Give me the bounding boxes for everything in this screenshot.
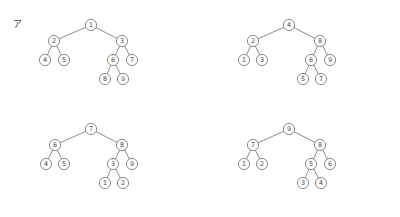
tree-edge bbox=[305, 65, 309, 74]
tree-edge bbox=[57, 150, 61, 159]
tree-edge bbox=[313, 46, 317, 55]
binary-tree-figure-set: ア 123456789 イ 428136957 ウ 768453912 エ 97… bbox=[0, 0, 400, 217]
tree-edge bbox=[255, 46, 259, 55]
tree-node: 7 bbox=[85, 123, 96, 134]
tree-node-value: 3 bbox=[111, 160, 115, 168]
tree-node: 7 bbox=[247, 139, 258, 150]
tree-node: 6 bbox=[107, 54, 118, 65]
tree-node: 6 bbox=[324, 158, 335, 169]
tree-node: 8 bbox=[314, 35, 325, 46]
tree-edge bbox=[47, 46, 51, 55]
tree-edge bbox=[115, 150, 119, 159]
tree-edge bbox=[48, 150, 52, 159]
tree-node-value: 7 bbox=[251, 141, 255, 149]
tree-node: 9 bbox=[324, 54, 335, 65]
tree-node-value: 1 bbox=[103, 179, 107, 187]
tree-edge bbox=[96, 28, 117, 39]
tree-node-value: 4 bbox=[44, 160, 48, 168]
tree-node: 2 bbox=[48, 35, 59, 46]
tree-node-value: 6 bbox=[111, 56, 115, 64]
tree-node: 8 bbox=[116, 139, 127, 150]
tree-node: 8 bbox=[314, 139, 325, 150]
tree-edge bbox=[60, 131, 86, 142]
tree-node-value: 2 bbox=[260, 160, 264, 168]
tree-panel-c: ウ 768453912 bbox=[0, 109, 200, 217]
tree-node: 4 bbox=[39, 54, 50, 65]
tree-node-value: 3 bbox=[120, 37, 124, 45]
tree-node-value: 6 bbox=[328, 160, 332, 168]
tree-node-value: 8 bbox=[103, 75, 107, 83]
tree-node-value: 6 bbox=[309, 56, 313, 64]
tree-node-value: 7 bbox=[89, 125, 93, 133]
tree-node-value: 5 bbox=[62, 56, 66, 64]
tree-node-value: 6 bbox=[53, 141, 57, 149]
tree-node: 5 bbox=[297, 73, 308, 84]
tree-edge bbox=[294, 28, 315, 39]
tree-node: 4 bbox=[283, 19, 294, 30]
tree-node: 2 bbox=[117, 177, 128, 188]
tree-node: 1 bbox=[85, 19, 96, 30]
tree-diagram-d: 978125634 bbox=[200, 109, 400, 217]
tree-node-value: 9 bbox=[328, 56, 332, 64]
tree-node-value: 5 bbox=[301, 75, 305, 83]
tree-node: 5 bbox=[305, 158, 316, 169]
tree-panel-d: エ 978125634 bbox=[200, 109, 400, 217]
tree-node-value: 2 bbox=[251, 37, 255, 45]
tree-node: 1 bbox=[99, 177, 110, 188]
tree-edge bbox=[246, 46, 250, 55]
tree-node: 5 bbox=[58, 158, 69, 169]
tree-edge bbox=[116, 65, 121, 74]
tree-node: 7 bbox=[315, 73, 326, 84]
tree-node-value: 8 bbox=[318, 37, 322, 45]
tree-edge bbox=[294, 132, 315, 143]
tree-edge bbox=[314, 169, 319, 178]
tree-panel-b: イ 428136957 bbox=[200, 0, 400, 108]
tree-node: 4 bbox=[315, 177, 326, 188]
tree-edge bbox=[323, 46, 328, 55]
tree-node: 6 bbox=[49, 139, 60, 150]
tree-node-value: 1 bbox=[89, 21, 93, 29]
tree-edge bbox=[125, 46, 130, 55]
tree-node-value: 9 bbox=[130, 160, 134, 168]
tree-node-value: 2 bbox=[52, 37, 56, 45]
tree-node-value: 3 bbox=[260, 56, 264, 64]
tree-node: 4 bbox=[40, 158, 51, 169]
tree-edge bbox=[258, 27, 284, 38]
tree-node: 9 bbox=[117, 73, 128, 84]
tree-edge bbox=[115, 46, 119, 55]
tree-edge bbox=[323, 150, 328, 159]
tree-edge bbox=[116, 169, 121, 178]
tree-node-value: 7 bbox=[319, 75, 323, 83]
tree-node: 6 bbox=[305, 54, 316, 65]
tree-node-value: 9 bbox=[287, 125, 291, 133]
tree-node: 1 bbox=[238, 54, 249, 65]
tree-node: 3 bbox=[116, 35, 127, 46]
tree-node-value: 5 bbox=[309, 160, 313, 168]
tree-node: 5 bbox=[58, 54, 69, 65]
tree-node: 1 bbox=[238, 158, 249, 169]
tree-edge bbox=[57, 46, 62, 55]
tree-edge bbox=[314, 65, 319, 74]
tree-edge bbox=[258, 131, 284, 142]
tree-node-value: 8 bbox=[120, 141, 124, 149]
tree-node-value: 8 bbox=[318, 141, 322, 149]
tree-node: 3 bbox=[256, 54, 267, 65]
tree-node: 3 bbox=[297, 177, 308, 188]
tree-edge bbox=[107, 65, 111, 74]
tree-node-value: 7 bbox=[130, 56, 134, 64]
tree-edge bbox=[305, 169, 309, 178]
tree-panel-a: ア 123456789 bbox=[0, 0, 200, 108]
tree-node: 3 bbox=[107, 158, 118, 169]
tree-edge bbox=[107, 169, 111, 178]
tree-node-value: 1 bbox=[242, 56, 246, 64]
tree-edge bbox=[59, 27, 86, 39]
tree-diagram-b: 428136957 bbox=[200, 0, 400, 108]
tree-edge bbox=[246, 150, 250, 159]
tree-node-value: 4 bbox=[43, 56, 47, 64]
tree-node: 2 bbox=[256, 158, 267, 169]
tree-diagram-a: 123456789 bbox=[0, 0, 200, 108]
tree-node-value: 2 bbox=[121, 179, 125, 187]
tree-diagram-c: 768453912 bbox=[0, 109, 200, 217]
tree-edge bbox=[125, 150, 130, 159]
tree-node-value: 4 bbox=[319, 179, 323, 187]
